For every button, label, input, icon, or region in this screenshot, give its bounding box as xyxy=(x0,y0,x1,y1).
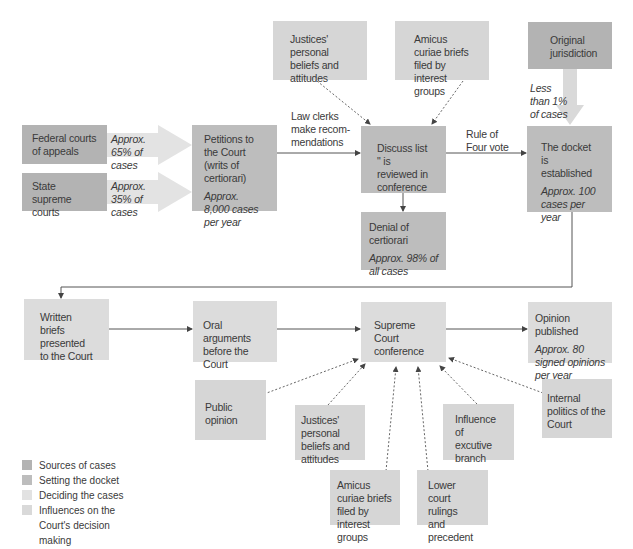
legend-label: Influences on the Court's decision makin… xyxy=(39,503,134,548)
justices-beliefs-bottom-box: Justices' personal beliefs and attitudes xyxy=(295,405,365,460)
petitions-title: Petitions to the Court (writs of certior… xyxy=(204,133,254,184)
denial-box: Denial of certiorari Approx. 98% of all … xyxy=(361,212,446,270)
legend-label: Setting the docket xyxy=(39,473,119,488)
justices-beliefs-top-label: Justices' personal beliefs and attitudes xyxy=(290,33,339,84)
docket-note: Approx. 100 cases per year xyxy=(541,185,598,224)
justices-beliefs-bottom-label: Justices' personal beliefs and attitudes xyxy=(301,414,350,465)
federal-share-label: Approx. 65% of cases xyxy=(111,133,161,172)
docket-to-briefs-line xyxy=(61,212,572,298)
state-share-label: Approx. 35% of cases xyxy=(111,180,161,219)
justices-bottom-influence xyxy=(328,364,365,405)
amicus-bottom-influence xyxy=(386,367,396,471)
original-jurisdiction-box: Original jurisdiction xyxy=(528,22,612,69)
internal-politics-influence xyxy=(449,358,543,393)
written-briefs-box: Written briefs presented to the Court xyxy=(24,299,109,360)
executive-branch-label: Influence of excutive branch xyxy=(455,413,496,464)
original-jurisdiction-label: Original jurisdiction xyxy=(550,34,597,59)
lower-court-box: Lower court rulings and precedent xyxy=(417,470,488,525)
legend-item-sources: Sources of cases xyxy=(22,458,134,473)
petitions-note: Approx. 8,000 cases per year xyxy=(204,190,265,229)
written-briefs-label: Written briefs presented to the Court xyxy=(40,311,92,362)
oral-arguments-box: Oral arguments before the Court xyxy=(193,301,277,362)
legend-item-docket: Setting the docket xyxy=(22,473,134,488)
internal-politics-box: Internal politics of the Court xyxy=(542,379,612,438)
amicus-briefs-top-box: Amicus curiae briefs filed by interest g… xyxy=(395,21,489,80)
supreme-court-conference-box: Supreme Court conference xyxy=(361,302,446,362)
legend: Sources of cases Setting the docket Deci… xyxy=(22,458,134,548)
opinion-published-box: Opinion published Approx. 80 signed opin… xyxy=(528,302,612,363)
original-share-label: Less than 1% of cases xyxy=(530,82,570,121)
legend-swatch xyxy=(22,505,32,515)
denial-title: Denial of certiorari xyxy=(369,221,409,246)
legend-label: Sources of cases xyxy=(39,458,116,473)
opinion-published-note: Approx. 80 signed opinions per year xyxy=(535,343,605,382)
federal-courts-box: Federal courts of appeals xyxy=(22,125,107,164)
internal-politics-label: Internal politics of the Court xyxy=(547,392,605,430)
lower-court-influence xyxy=(418,367,428,471)
federal-courts-label: Federal courts of appeals xyxy=(32,132,96,157)
lower-court-label: Lower court rulings and precedent xyxy=(428,479,473,543)
docket-title: The docket is established xyxy=(541,141,592,179)
legend-swatch xyxy=(22,475,32,485)
public-opinion-label: Public opinion xyxy=(205,401,237,426)
public-opinion-box: Public opinion xyxy=(195,380,266,440)
petitions-box: Petitions to the Court (writs of certior… xyxy=(192,125,277,211)
legend-swatch xyxy=(22,460,32,470)
state-courts-box: State supreme courts xyxy=(22,173,107,211)
supreme-court-flow-diagram: Federal courts of appeals State supreme … xyxy=(0,0,633,549)
justices-beliefs-top-box: Justices' personal beliefs and attitudes xyxy=(273,21,367,80)
legend-swatch xyxy=(22,490,32,500)
legend-item-deciding: Deciding the cases xyxy=(22,488,134,503)
discuss-list-label: Discuss list " is reviewed in conference xyxy=(377,142,428,193)
opinion-published-title: Opinion published xyxy=(535,312,578,337)
legend-item-influences: Influences on the Court's decision makin… xyxy=(22,503,134,548)
amicus-briefs-bottom-box: Amicus curiae briefs filed by interest g… xyxy=(330,470,400,525)
discuss-list-box: Discuss list " is reviewed in conference xyxy=(361,126,446,193)
public-opinion-influence xyxy=(264,359,358,394)
supreme-court-conference-label: Supreme Court conference xyxy=(374,319,424,357)
docket-box: The docket is established Approx. 100 ca… xyxy=(527,126,612,212)
executive-influence xyxy=(440,366,477,404)
legend-label: Deciding the cases xyxy=(39,488,124,503)
denial-note: Approx. 98% of all cases xyxy=(369,252,438,278)
rule-of-four-label: Rule of Four vote xyxy=(466,128,516,154)
executive-branch-box: Influence of excutive branch xyxy=(443,404,514,460)
law-clerks-label: Law clerks make recom- mendations xyxy=(291,110,351,149)
